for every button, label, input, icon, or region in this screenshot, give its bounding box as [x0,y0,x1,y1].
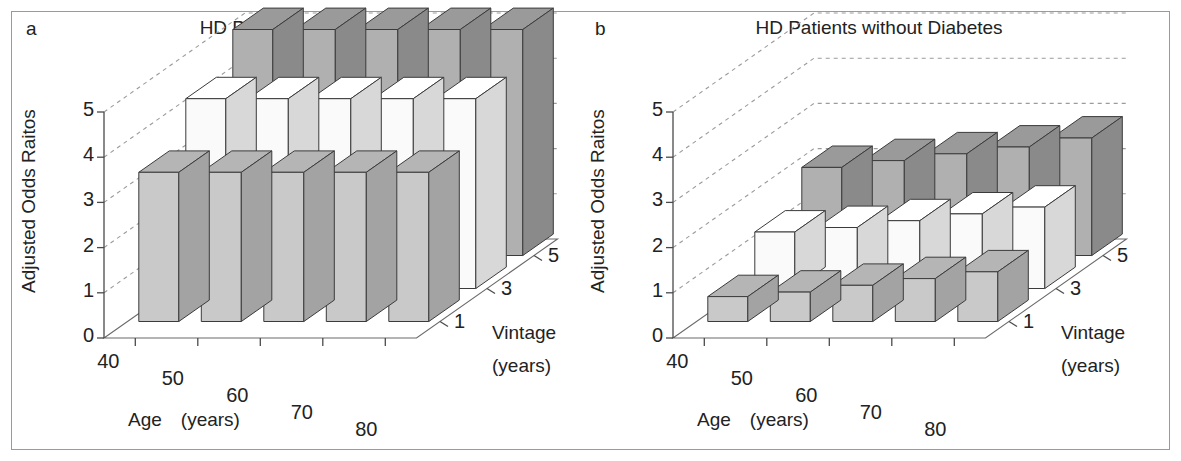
y-tick-label-1: 1 [627,279,663,302]
panel-b-z-axis-label-line1: Vintage [1061,322,1125,344]
x-tick-label-40: 40 [97,350,119,373]
z-tick-2 [1103,256,1111,261]
panel-b: b HD Patients without Diabetes Adjusted … [569,0,1159,437]
x-tick-label-40: 40 [666,350,688,373]
panel-a: a HD Patients with Diabetes Adjusted Odd… [0,0,590,437]
bar-front-v1-age40 [708,297,748,322]
x-tick-label-60: 60 [795,384,817,407]
z-tick-label-5: 5 [1117,244,1128,267]
bar-side-v1-age60 [304,151,335,322]
panel-a-z-axis-label-line1: Vintage [492,322,556,344]
x-tick-label-70: 70 [860,401,882,424]
z-tick-label-1: 1 [1023,310,1034,333]
y-tick-label-3: 3 [627,188,663,211]
y-tick-label-5: 5 [58,98,94,121]
y-tick-label-2: 2 [58,234,94,257]
x-tick-label-80: 80 [924,418,946,441]
z-tick-label-3: 3 [501,277,512,300]
x-tick-label-50: 50 [731,367,753,390]
z-tick-label-3: 3 [1070,277,1081,300]
panel-a-z-axis-label-line2: (years) [492,355,551,377]
gridline-5 [673,13,1127,112]
z-tick-0 [1009,322,1017,327]
x-tick-label-70: 70 [291,401,313,424]
bar-side-v1-age40 [179,151,210,322]
panel-b-z-axis-label-line2: (years) [1061,355,1120,377]
z-tick-1 [1056,289,1064,294]
bar-side-v5-age80 [1092,117,1123,256]
y-tick-label-3: 3 [58,188,94,211]
z-tick-1 [487,289,495,294]
x-tick-label-60: 60 [226,384,248,407]
bar-side-v3-age80 [476,77,507,288]
x-tick-label-50: 50 [162,367,184,390]
bar-side-v1-age70 [366,151,397,322]
figure-root: a HD Patients with Diabetes Adjusted Odd… [0,0,1181,461]
z-tick-label-5: 5 [548,244,559,267]
bar-side-v1-age80 [429,151,460,322]
y-tick-label-0: 0 [627,324,663,347]
z-tick-label-1: 1 [454,310,465,333]
y-tick-label-4: 4 [627,143,663,166]
y-tick-label-2: 2 [627,234,663,257]
y-tick-label-1: 1 [58,279,94,302]
y-tick-label-4: 4 [58,143,94,166]
bar-side-v5-age80 [523,8,554,255]
panel-a-x-axis-label: Age (years) [128,404,240,431]
x-tick-label-80: 80 [355,418,377,441]
bar-side-v1-age50 [241,151,271,322]
y-tick-label-0: 0 [58,324,94,347]
panel-b-x-axis-label: Age (years) [697,404,809,431]
y-tick-label-5: 5 [627,98,663,121]
z-tick-0 [440,322,448,327]
bar-front-v1-age40 [139,172,179,321]
z-tick-2 [534,256,542,261]
